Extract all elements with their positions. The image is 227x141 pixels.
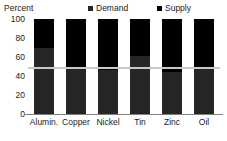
- bar-segment-demand[interactable]: [66, 68, 86, 114]
- bar-segment-supply[interactable]: [194, 19, 214, 68]
- bar-segment-supply[interactable]: [130, 19, 150, 56]
- bar-segment-demand[interactable]: [34, 48, 54, 115]
- y-tick-label: 40: [1, 71, 25, 81]
- bar-segment-demand[interactable]: [162, 72, 182, 114]
- bar-segment-demand[interactable]: [130, 56, 150, 114]
- bar-segment-supply[interactable]: [98, 19, 118, 70]
- y-tick-label: 0: [1, 109, 25, 119]
- legend-entry-demand: Demand: [88, 2, 128, 14]
- reference-line-50: [28, 67, 220, 69]
- legend-label-supply: Supply: [165, 3, 191, 13]
- y-tick-label: 80: [1, 33, 25, 43]
- y-tick-label: 20: [1, 90, 25, 100]
- legend-swatch-supply: [157, 6, 162, 11]
- legend-label-demand: Demand: [96, 3, 128, 13]
- chart-legend: Demand Supply: [88, 2, 227, 14]
- y-tick-mark: [26, 114, 29, 115]
- plot-area: [28, 19, 220, 114]
- legend-swatch-demand: [88, 6, 93, 11]
- chart-container: Percent Demand Supply 020406080100 Alumi…: [0, 0, 227, 141]
- bar-segment-supply[interactable]: [66, 19, 86, 68]
- x-axis-label: Oil: [184, 117, 224, 127]
- x-axis-labels: Alumin.CopperNickelTinZincOil: [28, 117, 220, 133]
- y-axis-ticks: 020406080100: [0, 19, 25, 114]
- legend-entry-supply: Supply: [157, 2, 191, 14]
- y-axis-title: Percent: [4, 3, 33, 13]
- y-tick-label: 100: [1, 14, 25, 24]
- x-axis-line: [24, 114, 223, 115]
- bar-segment-demand[interactable]: [98, 70, 118, 114]
- bar-segment-supply[interactable]: [34, 19, 54, 48]
- bar-segment-supply[interactable]: [162, 19, 182, 72]
- bar-segment-demand[interactable]: [194, 68, 214, 114]
- y-tick-label: 60: [1, 52, 25, 62]
